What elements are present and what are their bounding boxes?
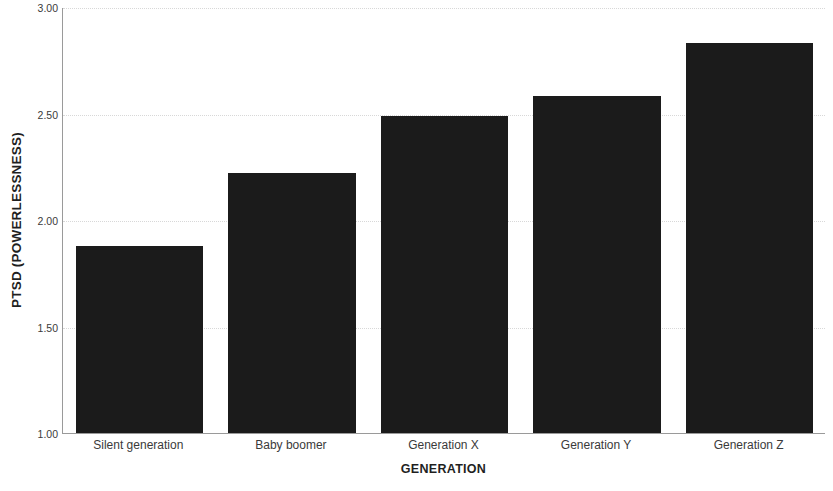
x-tick-label: Generation Z [714,438,784,452]
y-axis-tick-labels: 1.001.502.002.503.00 [18,0,58,491]
x-axis-title: GENERATION [62,462,825,476]
y-tick-label: 1.50 [20,322,58,334]
bar [381,116,508,433]
x-tick-label: Generation Y [561,438,632,452]
bar [533,96,660,433]
x-tick-label: Silent generation [93,438,183,452]
bar-chart: PTSD (POWERLESSNESS) 1.001.502.002.503.0… [0,0,833,491]
y-tick-label: 2.00 [20,215,58,227]
plot-area [62,8,825,434]
y-tick-label: 2.50 [20,109,58,121]
bar [76,246,203,433]
x-tick-label: Baby boomer [255,438,326,452]
bar [228,173,355,433]
y-tick-label: 3.00 [20,2,58,14]
y-tick-label: 1.00 [20,428,58,440]
x-tick-label: Generation X [408,438,479,452]
bar [686,43,813,433]
x-axis-tick-labels: Silent generationBaby boomerGeneration X… [62,438,825,462]
bar-series [63,8,825,433]
